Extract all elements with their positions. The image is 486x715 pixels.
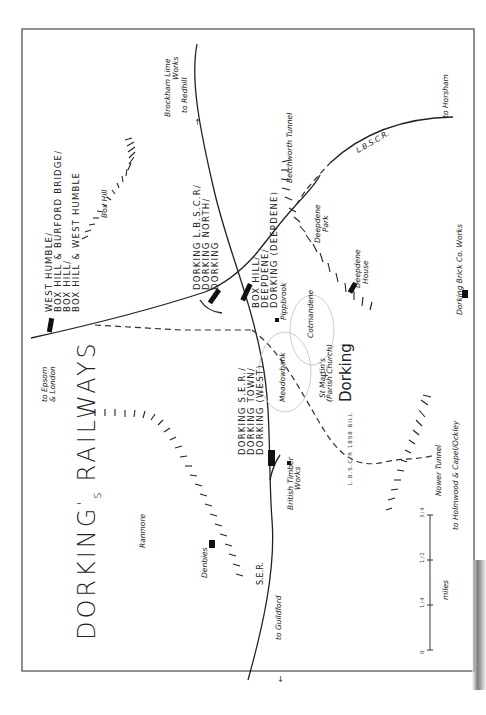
railway-horsham-line bbox=[330, 117, 453, 163]
label-st-martins-2: (Parish Church) bbox=[325, 344, 334, 402]
hachures-ranmore bbox=[95, 409, 243, 576]
label-deepdene-house-2: House bbox=[361, 260, 370, 284]
label-to-holmwood: to Holmwood & Capel/Ockley bbox=[451, 420, 460, 530]
scale-tick-0: 0 bbox=[419, 650, 425, 655]
label-to-guildford: to Guildford bbox=[274, 595, 283, 640]
page-edge-shadow bbox=[472, 560, 486, 690]
scale-tick-three-quarter: 3/4 bbox=[419, 506, 425, 518]
label-deepdene-park-2: Park bbox=[321, 215, 330, 232]
svg-text:BOX HILL & WEST HUMBLE: BOX HILL & WEST HUMBLE bbox=[71, 172, 81, 312]
arrow-redhill-icon: → bbox=[193, 118, 202, 125]
scale-tick-quarter: 1/4 bbox=[419, 596, 425, 608]
label-west-humble-station: WEST HUMBLE/ BOX HILL & BURFORD BRIDGE/ … bbox=[44, 150, 81, 312]
label-box-hill: Box Hill bbox=[100, 189, 109, 218]
label-brockham-2: Works bbox=[171, 57, 180, 80]
label-to-epsom-2: & London bbox=[48, 366, 57, 402]
svg-text:DORKING (WEST): DORKING (WEST) bbox=[255, 364, 265, 455]
label-lbscr-1898-bill: L.B.S.C.R 1898 BILL bbox=[347, 412, 353, 485]
label-to-horsham: to Horsham bbox=[441, 74, 450, 118]
arrow-guildford-icon: ← bbox=[276, 675, 285, 682]
label-pippbrook: Pippbrook bbox=[279, 282, 288, 320]
scale-tick-half: 1/2 bbox=[419, 551, 425, 563]
svg-text:DORKING: DORKING bbox=[210, 241, 220, 290]
svg-text:DORKING (DEEPDENE): DORKING (DEEPDENE) bbox=[269, 191, 279, 308]
label-lbscr: L.B.S.C.R. bbox=[355, 129, 391, 155]
label-to-redhill: to Redhill bbox=[180, 77, 189, 113]
label-cotmandene: Cotmandene bbox=[306, 289, 315, 338]
label-nower-tunnel: Nower Tunnel bbox=[434, 444, 443, 496]
hachures-box-hill bbox=[82, 138, 135, 239]
label-deepdene-station: BOX HILL/ DEEPDENE/ DORKING (DEEPDENE) bbox=[251, 191, 279, 308]
label-betchworth-tunnel: Betchworth Tunnel bbox=[285, 112, 294, 183]
label-meadowbank: Meadowbank bbox=[278, 352, 287, 402]
label-british-timber-2: Works bbox=[293, 467, 302, 490]
label-ranmore: Ranmore bbox=[138, 513, 147, 548]
hachures-nower bbox=[386, 395, 431, 510]
station-west-humble bbox=[47, 318, 54, 333]
label-ser: S.E.R. bbox=[256, 562, 265, 585]
label-dorking-town: Dorking bbox=[337, 343, 355, 402]
map-title: DORKING'sRAILWAYS bbox=[73, 340, 104, 640]
scale-bar: 0 1/4 1/2 3/4 miles bbox=[419, 506, 450, 654]
station-dorking-west bbox=[268, 450, 275, 466]
label-brick-works: Dorking Brick Co. Works bbox=[455, 224, 464, 315]
label-dorking-west-station: DORKING S.E.R./ DORKING TOWN/ DORKING (W… bbox=[237, 364, 265, 455]
railway-map: 0 1/4 1/2 3/4 miles DORKING'sRAILWAYS WE… bbox=[0, 0, 486, 715]
denbies-marker bbox=[209, 540, 215, 548]
railway-dashed-connection bbox=[95, 325, 252, 330]
scale-unit: miles bbox=[441, 580, 450, 600]
label-denbies: Denbies bbox=[200, 547, 209, 578]
